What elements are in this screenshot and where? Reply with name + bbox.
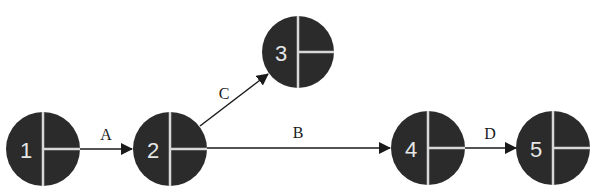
edge-label-d: D	[484, 125, 496, 142]
edge-a: A	[80, 126, 132, 149]
edge-label-c: C	[219, 85, 230, 102]
node-2: 2	[133, 112, 207, 186]
node-4: 4	[391, 111, 465, 185]
network-diagram: A B C D 1 2 3 4	[0, 0, 600, 194]
node-1: 1	[6, 112, 80, 186]
edge-label-a: A	[100, 126, 112, 143]
node-3: 3	[262, 16, 334, 88]
node-5: 5	[516, 111, 590, 185]
edge-c: C	[200, 74, 268, 126]
edge-label-b: B	[293, 124, 304, 141]
edge-b: B	[207, 124, 390, 148]
edge-d: D	[465, 125, 516, 148]
node-label-4: 4	[405, 137, 417, 162]
node-label-3: 3	[275, 41, 287, 66]
node-label-5: 5	[530, 137, 542, 162]
node-label-1: 1	[20, 138, 32, 163]
node-label-2: 2	[147, 138, 159, 163]
